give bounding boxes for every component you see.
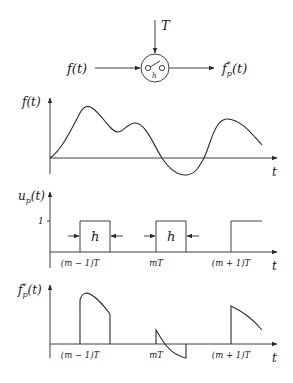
- switch-label: h: [152, 71, 157, 80]
- width-label-1: h: [91, 229, 99, 244]
- plot-f: f(t) t: [21, 95, 277, 179]
- tick-m-minus-1: (m − 1)T: [61, 258, 101, 268]
- plot-u-ylabel: up(t): [18, 189, 45, 205]
- output-label: f*p(t): [221, 60, 247, 78]
- tick-m: mT: [149, 258, 164, 268]
- plot-fp-xlabel: t: [272, 351, 277, 365]
- plot-f-ylabel: f(t): [21, 95, 41, 109]
- plot-fp: f*p(t) t (m − 1)T mT (m + 1)T: [17, 282, 277, 365]
- level-label: 1: [38, 216, 44, 226]
- pulse-3: [231, 221, 262, 252]
- plot-u-xlabel: t: [272, 259, 277, 273]
- plot-fp-ylabel: f*p(t): [17, 282, 42, 299]
- sampler-block: f(t) T h f*p(t): [66, 18, 247, 82]
- input-label: f(t): [66, 61, 87, 76]
- sampled-segment-3: [231, 306, 262, 344]
- tick-m-plus-1: (m + 1)T: [212, 258, 252, 268]
- plot-f-xlabel: t: [272, 165, 277, 179]
- f-curve: [50, 106, 262, 175]
- tick-m: mT: [149, 350, 164, 360]
- width-label-2: h: [167, 229, 175, 244]
- sampler-diagram: f(t) T h f*p(t) f(t) t up(t) 1 t: [0, 0, 293, 383]
- plot-u: up(t) 1 t h h (m − 1)T mT (m + 1)T: [18, 189, 277, 273]
- switch-icon: [145, 61, 164, 71]
- tick-m-minus-1: (m − 1)T: [61, 350, 101, 360]
- tick-m-plus-1: (m + 1)T: [212, 350, 252, 360]
- sampled-segment-1: [80, 293, 110, 344]
- period-label: T: [161, 18, 171, 33]
